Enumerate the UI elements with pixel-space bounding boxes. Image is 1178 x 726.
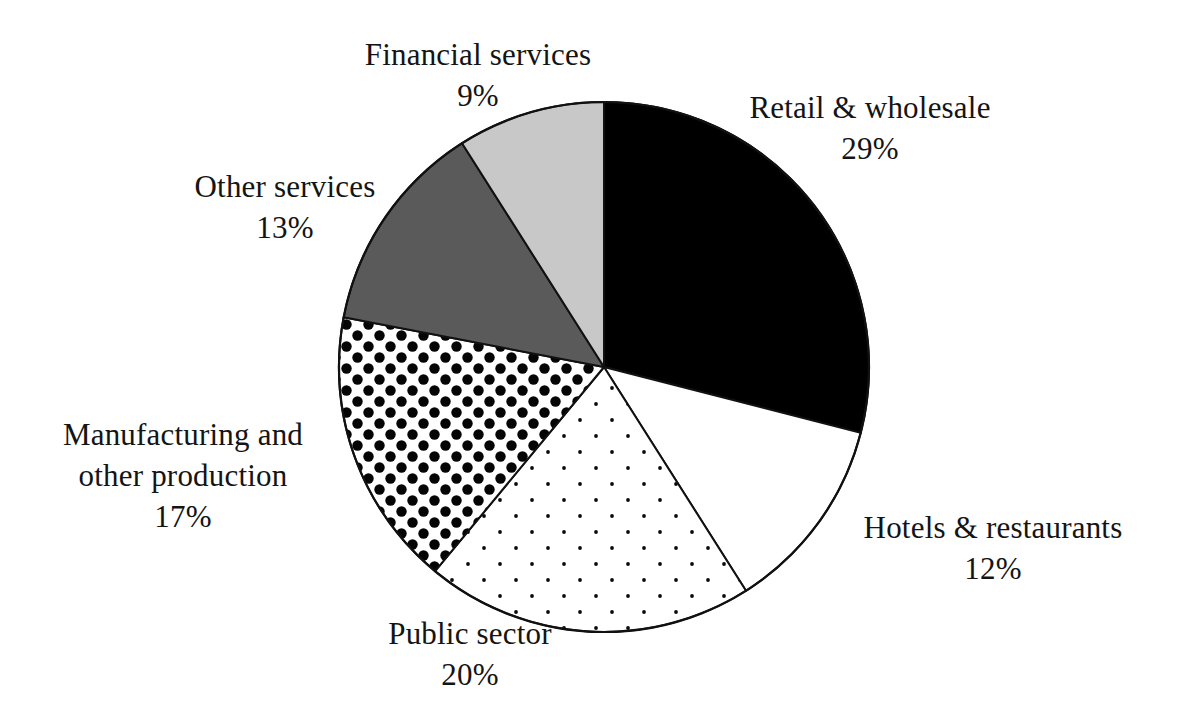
slice-label-financial-services-name: Financial services xyxy=(308,34,648,75)
slice-label-public-sector-name: Public sector xyxy=(305,613,635,654)
pie-chart-figure: Financial services 9% Retail & wholesale… xyxy=(0,0,1178,726)
slice-label-retail-wholesale-value: 29% xyxy=(700,128,1040,169)
slice-label-manufacturing: Manufacturing and other production 17% xyxy=(28,414,338,537)
slice-label-hotels-restaurants: Hotels & restaurants 12% xyxy=(818,507,1168,589)
slice-label-public-sector-value: 20% xyxy=(305,654,635,695)
slice-label-hotels-restaurants-value: 12% xyxy=(818,548,1168,589)
slice-label-manufacturing-name-line2: other production xyxy=(28,455,338,496)
slice-label-other-services: Other services 13% xyxy=(140,166,430,248)
slice-label-manufacturing-name-line1: Manufacturing and xyxy=(28,414,338,455)
slice-label-hotels-restaurants-name: Hotels & restaurants xyxy=(818,507,1168,548)
slice-label-other-services-value: 13% xyxy=(140,207,430,248)
slice-label-retail-wholesale-name: Retail & wholesale xyxy=(700,87,1040,128)
slice-label-manufacturing-value: 17% xyxy=(28,496,338,537)
slice-label-public-sector: Public sector 20% xyxy=(305,613,635,695)
slice-label-retail-wholesale: Retail & wholesale 29% xyxy=(700,87,1040,169)
slice-label-financial-services-value: 9% xyxy=(308,75,648,116)
slice-label-other-services-name: Other services xyxy=(140,166,430,207)
slice-label-financial-services: Financial services 9% xyxy=(308,34,648,116)
